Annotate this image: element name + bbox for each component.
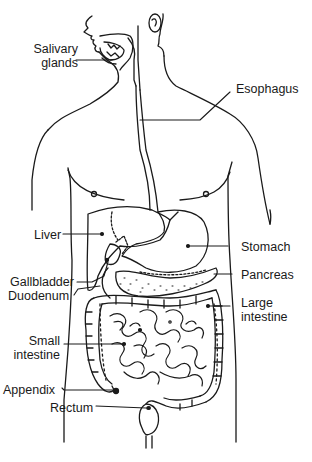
duodenum xyxy=(102,268,110,298)
label-stomach: Stomach xyxy=(241,240,290,254)
label-salivary-line1: Salivary xyxy=(28,42,78,56)
label-gallbladder: Gallbladder xyxy=(10,275,74,289)
oral-cavity xyxy=(100,26,140,90)
label-large-line1: Large xyxy=(241,296,288,310)
stomach-organ xyxy=(122,210,208,272)
label-small-line1: Small xyxy=(8,334,60,348)
label-small-line2: intestine xyxy=(8,348,60,362)
label-duodenum: Duodenum xyxy=(8,289,69,303)
small-intestine-coils xyxy=(110,310,206,386)
label-salivary-glands: Salivary glands xyxy=(28,42,78,70)
label-pancreas: Pancreas xyxy=(241,268,294,282)
head-profile xyxy=(48,14,270,224)
label-esophagus: Esophagus xyxy=(236,82,299,96)
large-intestine-colon xyxy=(85,290,223,410)
rectum-organ xyxy=(139,404,158,448)
digestive-system-diagram: Salivary glands Esophagus Liver Stomach … xyxy=(0,0,312,462)
label-salivary-line2: glands xyxy=(28,56,78,70)
label-large-intestine: Large intestine xyxy=(241,296,288,324)
label-large-line2: intestine xyxy=(241,310,288,324)
esophagus-tube xyxy=(136,86,158,212)
label-appendix: Appendix xyxy=(3,383,55,397)
label-rectum: Rectum xyxy=(50,401,93,415)
label-small-intestine: Small intestine xyxy=(8,334,60,362)
label-liver: Liver xyxy=(34,228,61,242)
